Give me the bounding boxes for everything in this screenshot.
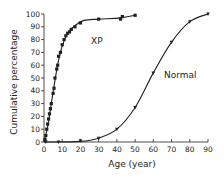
- y-tick-label: 90: [30, 22, 40, 31]
- square-marker: [62, 38, 65, 41]
- x-tick-label: 70: [167, 145, 177, 154]
- normal-series-label: Normal: [164, 70, 197, 80]
- x-tick-label: 60: [149, 145, 159, 154]
- y-ticks: [41, 14, 44, 142]
- x-tick-label: 40: [112, 145, 122, 154]
- y-tick-label: 10: [30, 125, 40, 134]
- square-marker: [52, 87, 55, 90]
- x-tick-label: 20: [76, 145, 86, 154]
- square-marker: [73, 25, 76, 28]
- x-tick-label: 50: [130, 145, 140, 154]
- x-tick-label: 10: [57, 145, 67, 154]
- y-tick-label: 40: [30, 86, 40, 95]
- square-marker: [61, 43, 64, 46]
- square-marker: [134, 14, 137, 17]
- x-tick-label: 90: [203, 145, 213, 154]
- square-marker: [79, 21, 82, 24]
- square-marker: [45, 128, 48, 131]
- x-tick-label: 80: [185, 145, 195, 154]
- square-marker: [50, 102, 53, 105]
- cumulative-percentage-chart: 0 10 20 30 40 50 60 70 80 90 100 0 10 20…: [0, 0, 224, 178]
- square-marker: [59, 51, 62, 54]
- square-marker: [44, 134, 47, 137]
- square-marker: [97, 18, 100, 21]
- square-marker: [47, 117, 50, 120]
- square-marker: [57, 55, 60, 58]
- x-axis-title: Age (year): [108, 159, 155, 169]
- square-marker: [48, 112, 51, 115]
- square-marker: [121, 15, 124, 18]
- square-marker: [46, 122, 49, 125]
- square-marker: [52, 92, 55, 95]
- xp-series-label: XP: [91, 36, 103, 46]
- series-line: [44, 15, 135, 142]
- y-tick-label: 0: [35, 138, 40, 147]
- y-tick-label: 50: [30, 74, 40, 83]
- y-tick-label: 20: [30, 112, 40, 121]
- square-marker: [49, 107, 52, 110]
- square-marker: [53, 76, 56, 79]
- square-marker: [70, 28, 73, 31]
- y-tick-label: 100: [26, 10, 41, 19]
- x-tick-label: 30: [94, 145, 104, 154]
- y-tick-label: 80: [30, 35, 40, 44]
- x-tick-label: 0: [42, 145, 47, 154]
- y-tick-labels: 0 10 20 30 40 50 60 70 80 90 100: [26, 10, 41, 147]
- square-marker: [56, 64, 59, 67]
- y-axis-title: Cumulative percentage: [9, 29, 19, 135]
- y-tick-label: 70: [30, 48, 40, 57]
- y-tick-label: 30: [30, 99, 40, 108]
- y-tick-label: 60: [30, 61, 40, 70]
- x-tick-labels: 0 10 20 30 40 50 60 70 80 90: [42, 145, 213, 154]
- series-xp: [43, 14, 136, 142]
- square-marker: [55, 67, 58, 70]
- square-marker: [43, 138, 46, 141]
